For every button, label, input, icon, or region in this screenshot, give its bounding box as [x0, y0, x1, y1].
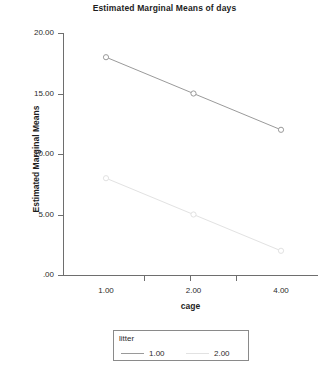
x-tick-mark: [190, 276, 191, 281]
data-point-marker: [278, 127, 283, 132]
y-tick-mark: [58, 154, 63, 155]
y-tick-mark: [58, 275, 63, 276]
series-1.00: [103, 55, 283, 133]
x-axis-title: cage: [63, 301, 318, 311]
y-tick-label: 5.00: [0, 210, 54, 219]
data-point-marker: [191, 212, 196, 217]
x-tick-label: 4.00: [251, 286, 311, 295]
y-axis-line: [63, 33, 64, 276]
legend-swatch-series-2: [186, 353, 209, 354]
series-line: [106, 57, 281, 130]
y-tick-label: 20.00: [0, 28, 54, 37]
legend-label-series-2: 2.00: [214, 349, 230, 358]
y-tick-label: 10.00: [0, 149, 54, 158]
x-tick-label: 1.00: [76, 286, 136, 295]
legend-item-series-1: 1.00: [121, 347, 165, 359]
x-tick-label: 2.00: [164, 286, 224, 295]
legend-label-series-1: 1.00: [149, 349, 165, 358]
legend-swatch-series-1: [121, 353, 144, 354]
x-tick-mark: [236, 276, 237, 281]
data-point-marker: [103, 176, 108, 181]
y-tick-label: .00: [0, 270, 54, 279]
chart-title: Estimated Marginal Means of days: [0, 3, 329, 13]
legend: litter 1.00 2.00: [113, 330, 249, 361]
series-line: [106, 178, 281, 251]
y-tick-mark: [58, 33, 63, 34]
y-tick-label: 15.00: [0, 89, 54, 98]
data-series-layer: [0, 0, 329, 385]
legend-item-series-2: 2.00: [186, 347, 230, 359]
x-tick-mark: [144, 276, 145, 281]
legend-title: litter: [119, 334, 134, 343]
data-point-marker: [278, 248, 283, 253]
data-point-marker: [103, 55, 108, 60]
series-2.00: [103, 176, 283, 254]
data-point-marker: [191, 91, 196, 96]
y-tick-mark: [58, 215, 63, 216]
y-tick-mark: [58, 94, 63, 95]
